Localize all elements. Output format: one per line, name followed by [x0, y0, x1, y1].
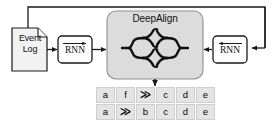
table-cell: a	[96, 104, 115, 120]
deepalign-title: DeepAlign	[105, 13, 205, 24]
alignment-table: a f ≫ c d e a ≫ b c d e	[95, 86, 216, 121]
table-cell: a	[96, 87, 115, 103]
table-cell: e	[196, 104, 215, 120]
table-cell: d	[176, 87, 195, 103]
diagram-canvas: Event Log RNN RNN DeepAlign a f ≫ c d e …	[0, 0, 279, 125]
table-cell: c	[156, 104, 175, 120]
alignment-table-body: a f ≫ c d e a ≫ b c d e	[96, 87, 215, 120]
table-row: a f ≫ c d e	[96, 87, 215, 103]
rnn-left-label: RNN	[58, 45, 92, 55]
event-log-label: Event Log	[14, 33, 46, 54]
table-cell: b	[136, 104, 155, 120]
table-row: a ≫ b c d e	[96, 104, 215, 120]
table-cell: e	[196, 87, 215, 103]
table-cell-gap: ≫	[116, 104, 135, 120]
event-log-label-line1: Event	[14, 33, 46, 44]
table-cell: c	[156, 87, 175, 103]
rnn-right-label: RNN	[213, 45, 247, 55]
table-cell: d	[176, 104, 195, 120]
table-cell: f	[116, 87, 135, 103]
event-log-label-line2: Log	[14, 44, 46, 55]
table-cell-gap: ≫	[136, 87, 155, 103]
